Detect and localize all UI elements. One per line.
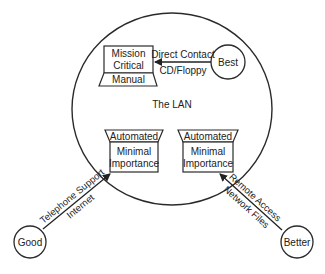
right-line2: Importance bbox=[183, 158, 233, 169]
mission-line1: Mission bbox=[112, 48, 146, 59]
better-arrow bbox=[220, 174, 282, 230]
lan-label: The LAN bbox=[152, 99, 191, 110]
left-top: Automated bbox=[110, 131, 158, 142]
support-diagram: The LAN Mission Critical Manual Automate… bbox=[0, 0, 325, 274]
mission-line2: Critical bbox=[113, 60, 144, 71]
left-line2: Importance bbox=[109, 158, 159, 169]
right-top: Automated bbox=[184, 131, 232, 142]
best-edge-above: Direct Contact bbox=[151, 49, 215, 60]
left-automated-node: Automated Minimal Importance bbox=[105, 130, 163, 172]
right-automated-node: Automated Minimal Importance bbox=[178, 130, 238, 172]
left-line1: Minimal bbox=[117, 146, 151, 157]
best-edge-below: CD/Floppy bbox=[159, 65, 206, 76]
good-label: Good bbox=[18, 237, 42, 248]
better-label: Better bbox=[284, 237, 311, 248]
mission-base: Manual bbox=[112, 74, 145, 85]
right-line1: Minimal bbox=[191, 146, 225, 157]
best-label: Best bbox=[218, 57, 238, 68]
mission-critical-node: Mission Critical Manual bbox=[99, 46, 157, 86]
